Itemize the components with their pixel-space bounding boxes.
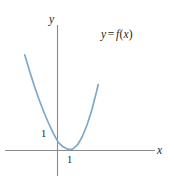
figure-container: y x 1 1 y=f(x) — [0, 0, 174, 180]
x-axis-label: x — [157, 145, 162, 157]
graph-plot-area — [0, 0, 174, 180]
equation-part-equals: = — [106, 28, 116, 40]
function-curve — [25, 55, 98, 149]
x-axis-tick-label-1: 1 — [67, 155, 72, 166]
y-axis-tick-label-1: 1 — [41, 129, 46, 140]
function-equation-label: y=f(x) — [101, 29, 133, 41]
equation-part-close-paren: ) — [129, 28, 133, 40]
y-axis-label: y — [49, 14, 54, 26]
